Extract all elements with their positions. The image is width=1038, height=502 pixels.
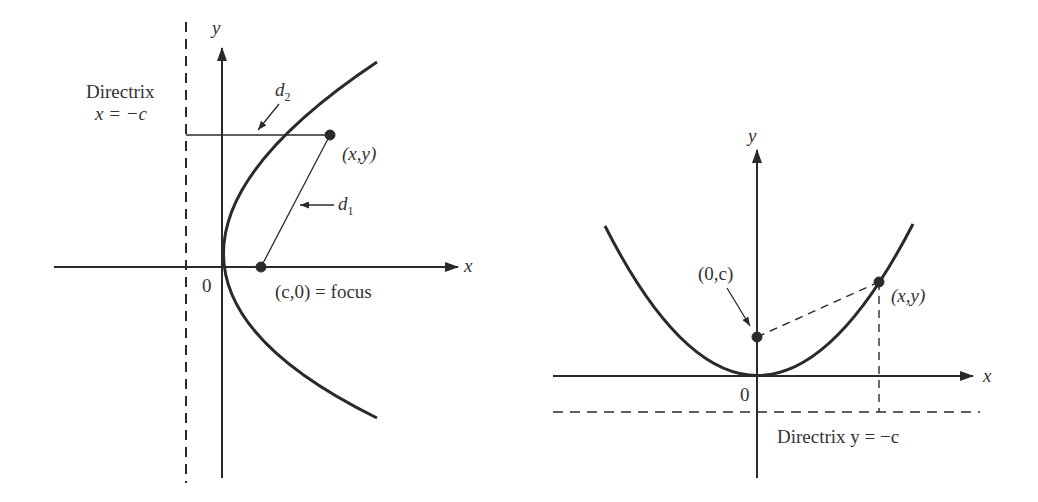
right-figure bbox=[553, 150, 980, 478]
d2-label: d2 bbox=[275, 80, 291, 103]
focus-label: (c,0) = focus bbox=[275, 282, 372, 301]
left-parabola bbox=[224, 62, 378, 418]
right-focus-label: (0,c) bbox=[698, 264, 733, 283]
right-x-axis-label: x bbox=[983, 366, 991, 385]
left-point-label: (x,y) bbox=[342, 144, 376, 163]
left-y-axis-label: y bbox=[212, 18, 220, 37]
right-directrix-label: Directrix y = −c bbox=[777, 427, 899, 446]
right-focus-dot bbox=[752, 332, 762, 342]
left-directrix-label: Directrix bbox=[86, 82, 155, 101]
right-y-axis-label: y bbox=[748, 126, 756, 145]
left-directrix-equation: x = −c bbox=[95, 104, 147, 123]
d1-segment bbox=[261, 135, 330, 267]
left-origin-label: 0 bbox=[202, 276, 212, 295]
left-point-dot bbox=[325, 130, 335, 140]
figure-canvas: y x 0 Directrix x = −c d2 d1 (x,y) (c,0)… bbox=[0, 0, 1038, 502]
focus-pointer bbox=[727, 288, 750, 326]
right-point-dot bbox=[874, 277, 884, 287]
left-focus-dot bbox=[256, 262, 266, 272]
right-parabola bbox=[605, 224, 913, 376]
right-point-label: (x,y) bbox=[891, 286, 925, 305]
right-origin-label: 0 bbox=[740, 385, 750, 404]
d2-pointer bbox=[258, 104, 279, 130]
d1-label: d1 bbox=[338, 194, 354, 217]
left-x-axis-label: x bbox=[464, 256, 472, 275]
